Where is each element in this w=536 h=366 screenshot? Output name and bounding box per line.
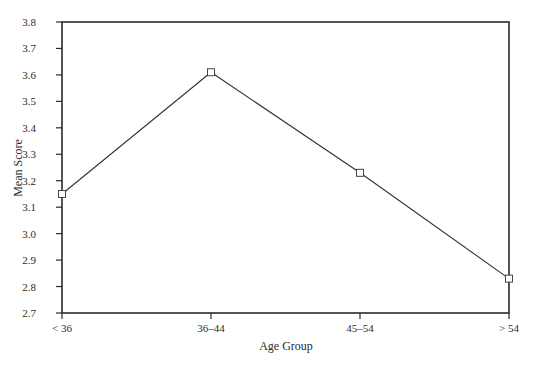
y-tick-label: 2.7 — [22, 307, 36, 319]
data-series — [59, 69, 513, 282]
x-axis-title: Age Group — [259, 339, 313, 353]
line-chart: 2.72.82.93.03.13.23.33.43.53.63.73.8 < 3… — [0, 0, 536, 366]
y-tick-label: 3.4 — [22, 122, 36, 134]
plot-border — [62, 22, 509, 313]
x-tick-label: 45–54 — [346, 322, 374, 334]
x-tick-label: 36–44 — [197, 322, 225, 334]
y-tick-label: 2.9 — [22, 254, 36, 266]
x-tick-label: < 36 — [52, 322, 72, 334]
y-axis: 2.72.82.93.03.13.23.33.43.53.63.73.8 — [22, 16, 62, 319]
y-axis-title: Mean Score — [11, 139, 25, 197]
x-axis: < 3636–4445–54> 54 — [52, 313, 519, 334]
y-tick-label: 3.1 — [22, 201, 36, 213]
y-tick-label: 3.0 — [22, 228, 36, 240]
series-line — [62, 72, 509, 278]
y-tick-label: 3.8 — [22, 16, 36, 28]
square-marker-icon — [208, 69, 215, 76]
y-tick-label: 3.6 — [22, 69, 36, 81]
y-tick-label: 2.8 — [22, 281, 36, 293]
y-tick-label: 3.5 — [22, 95, 36, 107]
y-tick-label: 3.7 — [22, 42, 36, 54]
plot-frame — [62, 22, 509, 313]
square-marker-icon — [506, 275, 513, 282]
x-tick-label: > 54 — [499, 322, 519, 334]
square-marker-icon — [59, 190, 66, 197]
square-marker-icon — [357, 169, 364, 176]
